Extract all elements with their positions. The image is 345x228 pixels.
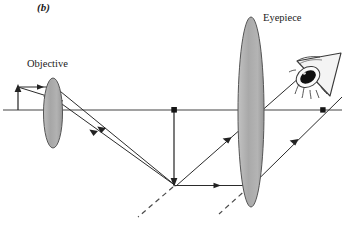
eyepiece-label: Eyepiece: [263, 13, 301, 24]
intermediate-image-arrow: [171, 107, 178, 187]
objective-output-arrowheads: [89, 126, 106, 136]
optics-figure: (b) Objective Eyepiece: [0, 0, 345, 228]
eyepiece-input-horizontal-ray: [176, 183, 252, 189]
eyepiece-lens: [238, 17, 264, 207]
objective-lens: [44, 78, 63, 148]
panel-label: (b): [37, 2, 50, 13]
objective-label: Objective: [27, 59, 68, 70]
ray-diagram-svg: [0, 0, 345, 228]
eye-icon: [289, 53, 341, 99]
objective-output-rays: [48, 87, 176, 186]
dashed-construction-lines: [138, 187, 249, 217]
